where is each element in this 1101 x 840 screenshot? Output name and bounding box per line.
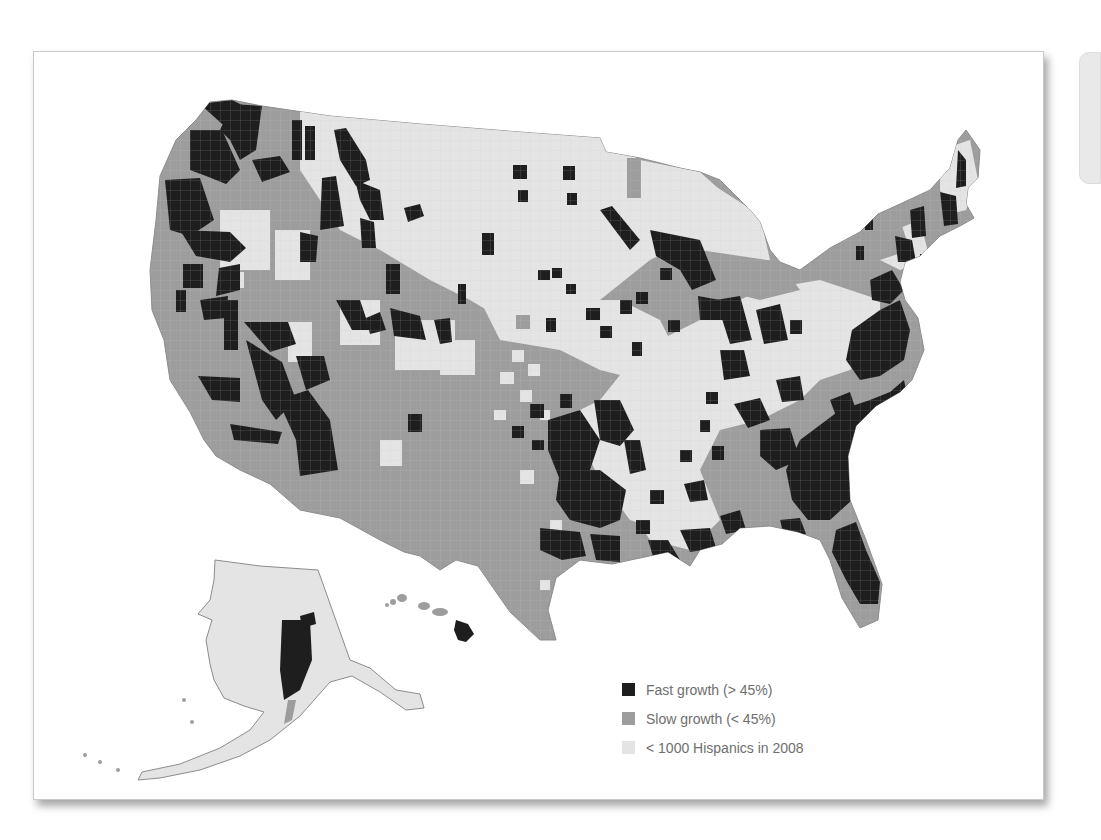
legend-item-few: < 1000 Hispanics in 2008 [622,733,804,762]
contiguous-us [140,90,1000,650]
legend-label: Slow growth (< 45%) [646,711,776,727]
legend-item-fast: Fast growth (> 45%) [622,675,804,704]
legend-item-slow: Slow growth (< 45%) [622,704,804,733]
hawaii [385,594,474,642]
legend-label: Fast growth (> 45%) [646,682,772,698]
few-hispanics-swatch [622,741,635,754]
map-legend: Fast growth (> 45%) Slow growth (< 45%) … [622,675,804,762]
legend-label: < 1000 Hispanics in 2008 [646,740,804,756]
slow-growth-swatch [622,712,635,725]
alaska [83,560,424,780]
fast-growth-swatch [622,683,635,696]
